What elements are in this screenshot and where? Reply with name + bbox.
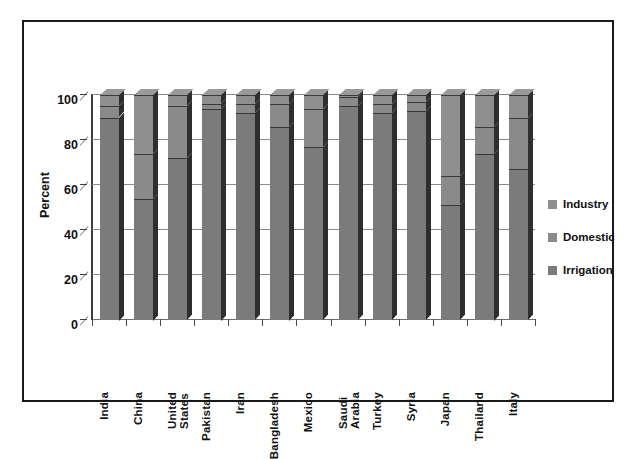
segment-side (528, 164, 533, 320)
segment-side (119, 112, 124, 320)
x-axis-label: Japan (439, 392, 451, 426)
segment-face (270, 95, 289, 104)
x-axis-label: China (132, 392, 144, 425)
segment-face (441, 95, 460, 176)
segment-face (270, 127, 289, 321)
bar-segment-irrigation (134, 199, 153, 321)
bar-slot (94, 95, 128, 320)
y-tick-60 (80, 184, 87, 185)
x-tick (160, 319, 161, 326)
segment-divider (202, 109, 221, 110)
x-tick (92, 319, 93, 326)
segment-face (236, 113, 255, 320)
legend-swatch-irrigation-icon (548, 266, 557, 275)
x-tick (501, 319, 502, 326)
segment-divider (475, 127, 494, 128)
bar-segment-industry (475, 95, 494, 127)
segment-side (494, 148, 499, 320)
segment-side (323, 141, 328, 320)
segment-divider (236, 95, 255, 96)
segment-face (304, 147, 323, 320)
bar-segment-domestic (100, 106, 119, 117)
bar-slot (264, 95, 298, 320)
segment-face (304, 109, 323, 147)
chart-frame: Percent 020406080100 IndiaChinaUnited St… (22, 20, 614, 402)
x-tick (467, 319, 468, 326)
segment-side (221, 103, 226, 320)
bar-segment-domestic (236, 104, 255, 113)
bar-segment-irrigation (407, 111, 426, 320)
chart-legend: IndustryDomesticIrrigation (548, 198, 638, 297)
segment-face (100, 118, 119, 321)
segment-face (202, 95, 221, 104)
bar-segment-industry (373, 95, 392, 104)
legend-item[interactable]: Irrigation (548, 264, 638, 276)
segment-divider (509, 169, 528, 170)
bar-segment-domestic (134, 154, 153, 199)
x-axis-label: Syria (405, 392, 417, 421)
bar-slot (128, 95, 162, 320)
segment-face (373, 113, 392, 320)
segment-face (202, 109, 221, 321)
depth-edge-20 (80, 271, 89, 281)
bar-segment-domestic (441, 176, 460, 205)
segment-divider (509, 118, 528, 119)
bar-slot (401, 95, 435, 320)
x-axis-label: Bangladesh (268, 392, 280, 459)
legend-label: Irrigation (563, 264, 613, 276)
bar-segment-industry (100, 95, 119, 106)
bar-segment-irrigation (509, 169, 528, 320)
segment-face (100, 106, 119, 117)
segment-divider (373, 104, 392, 105)
legend-label: Domestic (563, 231, 615, 243)
segment-face (509, 169, 528, 320)
segment-side (323, 103, 328, 147)
y-tick-0 (80, 319, 87, 320)
bar-segment-industry (134, 95, 153, 154)
bar-segment-irrigation (202, 109, 221, 321)
bar-slot (230, 95, 264, 320)
x-axis-label: Iran (234, 392, 246, 414)
segment-divider (441, 176, 460, 177)
segment-divider (407, 95, 426, 96)
bar-slot (162, 95, 196, 320)
depth-edge-40 (80, 226, 89, 236)
segment-face (441, 176, 460, 205)
bar-segment-domestic (270, 104, 289, 127)
segment-face (168, 158, 187, 320)
segment-divider (270, 104, 289, 105)
x-tick (433, 319, 434, 326)
bar-segment-domestic (407, 102, 426, 111)
segment-face (373, 104, 392, 113)
x-axis-label: Mexico (302, 392, 314, 432)
segment-face (168, 95, 187, 106)
segment-face (134, 199, 153, 321)
bar-segment-industry (236, 95, 255, 104)
x-tick (535, 319, 536, 326)
legend-item[interactable]: Domestic (548, 231, 638, 243)
bar-slot (469, 95, 503, 320)
y-tick-label-100: 100 (36, 93, 78, 107)
y-tick-100 (80, 94, 87, 95)
legend-swatch-industry-icon (548, 200, 557, 209)
bar-segment-irrigation (270, 127, 289, 321)
segment-divider (373, 113, 392, 114)
segment-divider (509, 95, 528, 96)
segment-face (100, 95, 119, 106)
segment-face (236, 104, 255, 113)
bar-segment-domestic (373, 104, 392, 113)
bar-segment-industry (407, 95, 426, 102)
segment-divider (475, 154, 494, 155)
segment-side (187, 152, 192, 320)
segment-divider (407, 102, 426, 103)
segment-side (494, 89, 499, 126)
x-axis-label: Turkey (371, 392, 383, 430)
bar-segment-domestic (475, 127, 494, 154)
legend-item[interactable]: Industry (548, 198, 638, 210)
depth-edge-60 (80, 181, 89, 191)
y-tick-label-40: 40 (36, 228, 78, 242)
segment-face (339, 97, 358, 106)
segment-face (270, 104, 289, 127)
segment-side (289, 121, 294, 320)
